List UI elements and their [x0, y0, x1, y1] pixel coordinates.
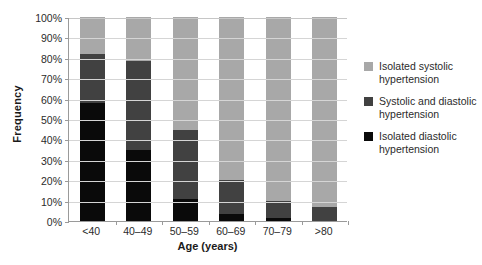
bar-segment[interactable]: [173, 17, 198, 130]
bar-segment[interactable]: [219, 214, 244, 221]
y-axis-tickmark: [65, 222, 69, 223]
bar-segment[interactable]: [266, 218, 291, 221]
gridline: [69, 202, 347, 203]
x-axis-tick-label: >80: [294, 224, 354, 238]
y-axis-tick-labels: 100%90%80%70%60%50%40%30%20%10%0%: [26, 18, 62, 222]
legend-item[interactable]: Isolated systolic hypertension: [364, 60, 480, 85]
y-axis-tickmark: [65, 59, 69, 60]
y-axis-tick-label: 40%: [26, 135, 62, 146]
y-axis-title: Frequency: [11, 64, 23, 164]
legend-label: Isolated diastolic hypertension: [379, 130, 480, 155]
gridline: [69, 120, 347, 121]
bar-segment[interactable]: [266, 17, 291, 201]
chart-legend: Isolated systolic hypertensionSystolic a…: [364, 60, 480, 165]
gridline: [69, 140, 347, 141]
legend-item[interactable]: Isolated diastolic hypertension: [364, 130, 480, 155]
legend-label: Isolated systolic hypertension: [379, 60, 480, 85]
bar-segment[interactable]: [312, 207, 337, 221]
stacked-bar-chart: Frequency 100%90%80%70%60%50%40%30%20%10…: [0, 0, 482, 265]
legend-swatch-icon: [364, 132, 373, 141]
bar-segment[interactable]: [80, 17, 105, 54]
y-axis-tick-label: 20%: [26, 176, 62, 187]
legend-swatch-icon: [364, 62, 373, 71]
y-axis-tick-label: 60%: [26, 95, 62, 106]
legend-label: Systolic and diastolic hypertension: [379, 95, 480, 120]
gridline: [69, 79, 347, 80]
legend-swatch-icon: [364, 97, 373, 106]
y-axis-tickmark: [65, 100, 69, 101]
y-axis-tick-label: 80%: [26, 54, 62, 65]
y-axis-tickmark: [65, 161, 69, 162]
y-axis-tick-label: 90%: [26, 33, 62, 44]
gridline: [69, 59, 347, 60]
gridline: [69, 38, 347, 39]
y-axis-tickmark: [65, 18, 69, 19]
y-axis-tick-label: 100%: [26, 13, 62, 24]
y-axis-tick-label: 70%: [26, 74, 62, 85]
y-axis-tickmark: [65, 79, 69, 80]
bar-segment[interactable]: [312, 17, 337, 207]
y-axis-tick-label: 30%: [26, 156, 62, 167]
y-axis-tickmark: [65, 120, 69, 121]
gridline: [69, 161, 347, 162]
gridline: [69, 100, 347, 101]
gridline: [69, 181, 347, 182]
y-axis-tickmark: [65, 140, 69, 141]
y-axis-tickmark: [65, 202, 69, 203]
y-axis-tickmark: [65, 181, 69, 182]
bar-segment[interactable]: [126, 61, 151, 150]
y-axis-tick-label: 50%: [26, 115, 62, 126]
x-axis-tick-labels: <4040–4950–5960–6970–79>80: [68, 224, 347, 240]
y-axis-tick-label: 10%: [26, 197, 62, 208]
y-axis-tickmark: [65, 38, 69, 39]
gridline: [69, 18, 347, 19]
plot-area: [68, 18, 347, 222]
y-axis-tick-label: 0%: [26, 217, 62, 228]
x-axis-title: Age (years): [68, 240, 347, 252]
legend-item[interactable]: Systolic and diastolic hypertension: [364, 95, 480, 120]
bar-segment[interactable]: [219, 180, 244, 214]
bar-segment[interactable]: [266, 201, 291, 218]
